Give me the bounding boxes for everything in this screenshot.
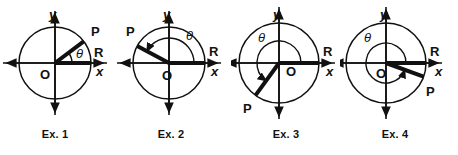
unit-circle-svg-ex3: yxOPRθ xyxy=(231,0,341,128)
terminal-side-op xyxy=(137,46,169,63)
y-axis-label: y xyxy=(272,7,281,22)
x-axis-label: x xyxy=(325,64,334,79)
point-r-label: R xyxy=(94,45,104,60)
diagram-panel-ex1: yxOPRθ Ex. 1 xyxy=(0,0,110,155)
point-r-label: R xyxy=(323,44,333,59)
theta-label: θ xyxy=(186,28,193,43)
terminal-side-op xyxy=(255,63,279,95)
diagram-panel-ex4: yxOPRθ Ex. 4 xyxy=(340,0,450,155)
x-axis-label: x xyxy=(210,64,219,79)
caption-ex1: Ex. 1 xyxy=(0,128,110,140)
x-axis-label: x xyxy=(95,64,104,79)
unit-circle-svg-ex2: yxOPRθ xyxy=(116,0,226,128)
unit-circle-svg-ex4: yxOPRθ xyxy=(340,0,450,128)
origin-label: O xyxy=(40,67,50,82)
theta-label: θ xyxy=(258,30,265,45)
point-p-label: P xyxy=(243,101,252,116)
caption-ex4: Ex. 4 xyxy=(340,128,450,140)
unit-circle-svg-ex1: yxOPRθ xyxy=(0,0,110,128)
y-axis-label: y xyxy=(48,7,57,22)
origin-label: O xyxy=(376,66,386,81)
point-p-label: P xyxy=(91,24,100,39)
theta-label: θ xyxy=(364,30,371,45)
x-axis-label: x xyxy=(434,64,443,79)
theta-label: θ xyxy=(76,46,83,61)
point-r-label: R xyxy=(430,44,440,59)
origin-label: O xyxy=(286,64,296,79)
figure-root: yxOPRθ Ex. 1 yxOPRθ Ex. 2 yxOPRθ Ex. 3 y… xyxy=(0,0,458,155)
diagram-panel-ex2: yxOPRθ Ex. 2 xyxy=(116,0,226,155)
diagram-panel-ex3: yxOPRθ Ex. 3 xyxy=(231,0,341,155)
origin-label: O xyxy=(162,68,172,83)
caption-ex3: Ex. 3 xyxy=(231,128,341,140)
point-p-label: P xyxy=(426,84,435,99)
caption-ex2: Ex. 2 xyxy=(116,128,226,140)
terminal-side-op xyxy=(386,63,424,77)
y-axis-label: y xyxy=(379,7,388,22)
point-p-label: P xyxy=(126,24,135,39)
point-r-label: R xyxy=(209,44,219,59)
y-axis-label: y xyxy=(162,7,171,22)
